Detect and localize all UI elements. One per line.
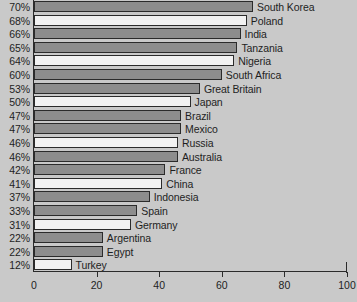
bar-india bbox=[34, 28, 241, 39]
bar-row: 65%Tanzania bbox=[0, 42, 357, 56]
bar-row: 12%Turkey bbox=[0, 259, 357, 273]
x-axis-tick-label: 80 bbox=[279, 279, 291, 291]
x-axis-tick-label: 100 bbox=[338, 279, 356, 291]
bar-value-label: 37% bbox=[0, 191, 30, 203]
bar-france bbox=[34, 164, 165, 175]
bar-turkey bbox=[34, 259, 72, 270]
bar-value-label: 53% bbox=[0, 83, 30, 95]
bar-argentina bbox=[34, 232, 103, 243]
bar-category-label: South Africa bbox=[226, 69, 281, 81]
bar-category-label: Turkey bbox=[76, 259, 107, 271]
bar-category-label: Japan bbox=[195, 96, 223, 108]
bar-value-label: 46% bbox=[0, 151, 30, 163]
x-axis-tick bbox=[222, 272, 223, 277]
bar-tanzania bbox=[34, 42, 237, 53]
bar-category-label: Germany bbox=[135, 219, 177, 231]
bar-chart: 70%South Korea68%Poland66%India65%Tanzan… bbox=[0, 0, 357, 302]
bar-value-label: 60% bbox=[0, 69, 30, 81]
bar-row: 66%India bbox=[0, 28, 357, 42]
bar-row: 60%South Africa bbox=[0, 69, 357, 83]
bar-category-label: Spain bbox=[141, 205, 167, 217]
bar-australia bbox=[34, 151, 178, 162]
x-axis-tick bbox=[284, 272, 285, 277]
bar-row: 46%Russia bbox=[0, 137, 357, 151]
bar-row: 68%Poland bbox=[0, 15, 357, 29]
bar-row: 46%Australia bbox=[0, 151, 357, 165]
bar-germany bbox=[34, 219, 131, 230]
bar-value-label: 65% bbox=[0, 42, 30, 54]
bar-nigeria bbox=[34, 55, 234, 66]
bar-value-label: 31% bbox=[0, 219, 30, 231]
bar-value-label: 12% bbox=[0, 259, 30, 271]
bar-brazil bbox=[34, 110, 181, 121]
x-axis-tick-label: 0 bbox=[31, 279, 37, 291]
bar-value-label: 64% bbox=[0, 55, 30, 67]
bar-category-label: Brazil bbox=[185, 110, 211, 122]
x-axis-tick-label: 40 bbox=[153, 279, 165, 291]
bar-row: 31%Germany bbox=[0, 219, 357, 233]
bar-south-korea bbox=[34, 1, 253, 12]
bar-category-label: Argentina bbox=[107, 232, 151, 244]
bar-category-label: South Korea bbox=[257, 1, 314, 13]
bar-row: 64%Nigeria bbox=[0, 55, 357, 69]
bar-category-label: France bbox=[169, 164, 201, 176]
bar-value-label: 41% bbox=[0, 178, 30, 190]
x-axis-tick bbox=[347, 272, 348, 277]
bar-row: 37%Indonesia bbox=[0, 191, 357, 205]
bar-row: 50%Japan bbox=[0, 96, 357, 110]
bar-category-label: Russia bbox=[182, 137, 214, 149]
bar-value-label: 70% bbox=[0, 1, 30, 13]
bar-row: 47%Brazil bbox=[0, 110, 357, 124]
bar-value-label: 22% bbox=[0, 232, 30, 244]
bar-category-label: Tanzania bbox=[241, 42, 282, 54]
bar-value-label: 42% bbox=[0, 164, 30, 176]
bar-category-label: Poland bbox=[251, 15, 283, 27]
bar-row: 53%Great Britain bbox=[0, 83, 357, 97]
bar-category-label: Egypt bbox=[107, 246, 133, 258]
bar-china bbox=[34, 178, 162, 189]
bar-category-label: Nigeria bbox=[238, 55, 271, 67]
x-axis-tick-label: 60 bbox=[216, 279, 228, 291]
bar-row: 41%China bbox=[0, 178, 357, 192]
bar-category-label: Indonesia bbox=[154, 191, 199, 203]
bar-value-label: 66% bbox=[0, 28, 30, 40]
bar-indonesia bbox=[34, 191, 150, 202]
bar-value-label: 68% bbox=[0, 15, 30, 27]
bar-japan bbox=[34, 96, 191, 107]
bar-rows-container: 70%South Korea68%Poland66%India65%Tanzan… bbox=[0, 0, 357, 272]
bar-value-label: 46% bbox=[0, 137, 30, 149]
bar-russia bbox=[34, 137, 178, 148]
bar-row: 47%Mexico bbox=[0, 123, 357, 137]
bar-category-label: Australia bbox=[182, 151, 222, 163]
bar-value-label: 22% bbox=[0, 246, 30, 258]
x-axis-tick bbox=[97, 272, 98, 277]
bar-egypt bbox=[34, 246, 103, 257]
bar-south-africa bbox=[34, 69, 222, 80]
bar-row: 70%South Korea bbox=[0, 1, 357, 15]
bar-category-label: Great Britain bbox=[204, 83, 262, 95]
bar-value-label: 33% bbox=[0, 205, 30, 217]
x-axis-tick-label: 20 bbox=[91, 279, 103, 291]
bar-row: 42%France bbox=[0, 164, 357, 178]
bar-row: 33%Spain bbox=[0, 205, 357, 219]
bar-row: 22%Argentina bbox=[0, 232, 357, 246]
bar-spain bbox=[34, 205, 137, 216]
bar-category-label: Mexico bbox=[185, 123, 218, 135]
x-axis-tick bbox=[159, 272, 160, 277]
bar-great-britain bbox=[34, 83, 200, 94]
bar-row: 22%Egypt bbox=[0, 246, 357, 260]
bar-mexico bbox=[34, 123, 181, 134]
bar-poland bbox=[34, 15, 247, 26]
bar-category-label: China bbox=[166, 178, 193, 190]
bar-category-label: India bbox=[245, 28, 267, 40]
bar-value-label: 47% bbox=[0, 110, 30, 122]
bar-value-label: 47% bbox=[0, 123, 30, 135]
x-axis: 020406080100 bbox=[33, 272, 347, 302]
bar-value-label: 50% bbox=[0, 96, 30, 108]
